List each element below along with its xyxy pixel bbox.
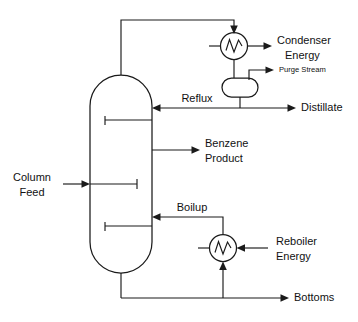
reboiler-body [210,235,237,262]
bottoms-arrow-icon [281,294,290,301]
condenser-energy-arrow-icon [264,42,273,49]
column-feed-label-line1: Column [13,171,51,183]
purge-stream [249,66,274,80]
benzene-product-stream [152,146,200,153]
reboiler-energy-label-line1: Reboiler [276,235,317,247]
condenser-body [221,33,248,60]
purge-stream-label: Purge Stream [279,65,326,74]
reboiler-energy-arrow-icon [237,244,246,251]
reboiler-energy-label-line2: Energy [276,250,311,262]
condenser [209,33,272,60]
distillate-arrow-icon [288,104,297,111]
bottoms-label: Bottoms [294,291,335,303]
reflux-label: Reflux [181,92,213,104]
boilup-label: Boilup [177,201,208,213]
purge-stream-arrow-icon [266,66,275,73]
reboiler [198,235,268,262]
reboiler-zigzag-icon [215,242,231,255]
reflux-drum [222,78,258,97]
boilup-arrow-icon [152,213,161,220]
distillate-label: Distillate [301,101,343,113]
reboiler-feed-arrow-icon [219,262,227,271]
boilup-line [158,217,223,234]
benzene-product-label-line2: Product [205,152,243,164]
distillation-column [90,75,152,273]
boilup-stream [152,213,223,234]
column-feed-label-line2: Feed [19,186,44,198]
benzene-product-arrow-icon [192,146,201,153]
pfd-canvas: Condenser Energy Purge Stream Reflux Dis… [0,0,358,322]
condenser-energy-label-line2: Energy [285,49,320,61]
reflux-arrow-icon [152,104,161,111]
reflux-drum-body [222,78,258,97]
condenser-zigzag-icon [226,40,242,53]
column-trays [90,116,152,231]
condenser-energy-label-line1: Condenser [277,34,331,46]
reflux-distillate-header [152,97,296,112]
column-shell [90,75,152,273]
bottoms-stream [121,262,289,302]
process-flow-diagram: Condenser Energy Purge Stream Reflux Dis… [0,0,358,322]
column-feed-stream [63,180,90,187]
overhead-vapor-line [121,20,234,75]
column-feed-arrow-icon [82,180,91,187]
benzene-product-label-line1: Benzene [205,137,248,149]
